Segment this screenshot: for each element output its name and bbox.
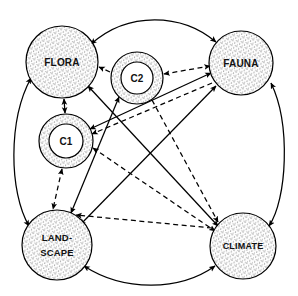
- edge-fauna-landscape: [80, 86, 216, 225]
- diagram-canvas: FLORA FAUNA LAND- SCAPE CLIMATE C1 C2: [0, 0, 298, 296]
- edge-c1-landscape: [53, 169, 62, 209]
- edge-c2-flora: [99, 67, 110, 72]
- graph-svg: FLORA FAUNA LAND- SCAPE CLIMATE C1 C2: [0, 0, 298, 296]
- fauna-label: FAUNA: [223, 58, 258, 69]
- node-flora[interactable]: FLORA: [26, 26, 98, 98]
- node-climate[interactable]: CLIMATE: [210, 213, 276, 279]
- node-landscape[interactable]: LAND- SCAPE: [22, 210, 92, 280]
- edge-flora-c1: [64, 99, 65, 113]
- edge-fauna-c2: [164, 66, 210, 74]
- edge-flora-fauna: [91, 20, 216, 44]
- landscape-label-line1: LAND-: [42, 232, 73, 243]
- node-fauna[interactable]: FAUNA: [209, 31, 273, 95]
- edge-landscape-climate: [84, 266, 215, 285]
- node-c1[interactable]: C1: [39, 114, 93, 168]
- c1-label: C1: [59, 136, 72, 147]
- landscape-circle: [22, 210, 92, 280]
- edge-fauna-climate: [269, 83, 284, 226]
- climate-label: CLIMATE: [223, 241, 264, 251]
- edge-flora-climate: [88, 86, 218, 226]
- flora-label: FLORA: [44, 57, 79, 68]
- node-c2[interactable]: C2: [111, 52, 163, 104]
- edge-flora-landscape: [14, 78, 31, 226]
- landscape-label-line2: SCAPE: [40, 247, 74, 258]
- edge-climate-landscape: [76, 215, 212, 228]
- c2-label: C2: [130, 73, 143, 84]
- edge-c1-climate: [93, 148, 215, 231]
